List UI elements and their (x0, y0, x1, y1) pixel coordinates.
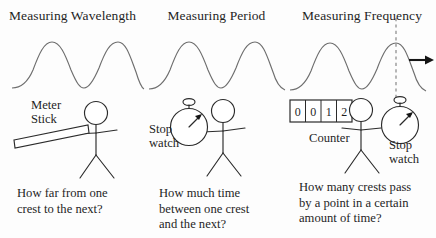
direction-arrow-icon (409, 56, 434, 65)
counter-label-text: Counter (309, 131, 350, 145)
meter-stick-label: Meter Stick (31, 98, 61, 126)
caption-frequency-line-1: How many crests pass (299, 180, 436, 196)
caption-frequency: How many crests pass by a point in a cer… (288, 180, 436, 227)
wave-properties-figure: Measuring Wavelength (0, 0, 436, 238)
caption-wavelength: How far from one crest to the next? (0, 186, 162, 217)
wave-icon (288, 32, 436, 100)
caption-period-line-1: How much time (159, 186, 302, 202)
counter-digit-4: 2 (341, 105, 347, 119)
panel-measuring-period: Measuring Period (145, 0, 288, 238)
wave-icon (0, 32, 145, 94)
meter-stick-label-line-1: Meter (31, 98, 61, 112)
meter-stick-icon (14, 125, 89, 148)
stick-figure-icon (73, 102, 117, 179)
counter-icon: 0 0 1 2 (290, 100, 352, 122)
counter-digit-2: 0 (310, 105, 316, 119)
panel-measuring-frequency: Measuring Frequency (288, 0, 436, 238)
stopwatch-label-frequency-line-2: watch (389, 152, 419, 166)
caption-wavelength-line-1: How far from one (17, 186, 162, 202)
wave-diagram-period (145, 32, 288, 94)
stopwatch-label-period: Stop watch (149, 122, 179, 150)
counter-digit-1: 0 (295, 105, 301, 119)
caption-frequency-line-2: by a point in a certain (299, 196, 436, 212)
stopwatch-label-period-line-2: watch (149, 136, 179, 150)
wave-diagram-wavelength (0, 32, 145, 94)
meter-stick-label-line-2: Stick (31, 112, 61, 126)
stopwatch-icon (382, 97, 419, 144)
meter-stick-and-figure (0, 92, 145, 180)
wave-diagram-frequency (288, 32, 436, 94)
caption-period: How much time between one crest and the … (145, 186, 302, 233)
scene-wavelength (0, 92, 145, 180)
caption-period-line-3: and the next? (159, 217, 302, 233)
caption-frequency-line-3: amount of time? (299, 211, 436, 227)
caption-period-line-2: between one crest (159, 202, 302, 218)
panel-title-frequency: Measuring Frequency (288, 8, 436, 24)
stopwatch-label-frequency: Stop watch (389, 138, 419, 166)
panel-measuring-wavelength: Measuring Wavelength (0, 0, 145, 238)
panel-title-wavelength: Measuring Wavelength (0, 8, 145, 24)
stopwatch-label-frequency-line-1: Stop (389, 138, 419, 152)
counter-digit-3: 1 (326, 105, 332, 119)
wave-icon (145, 32, 288, 94)
panel-title-period: Measuring Period (145, 8, 288, 24)
stick-figure-icon (202, 100, 245, 177)
caption-wavelength-line-2: crest to the next? (17, 202, 162, 218)
stopwatch-label-period-line-1: Stop (149, 122, 179, 136)
counter-label: Counter (309, 131, 350, 145)
